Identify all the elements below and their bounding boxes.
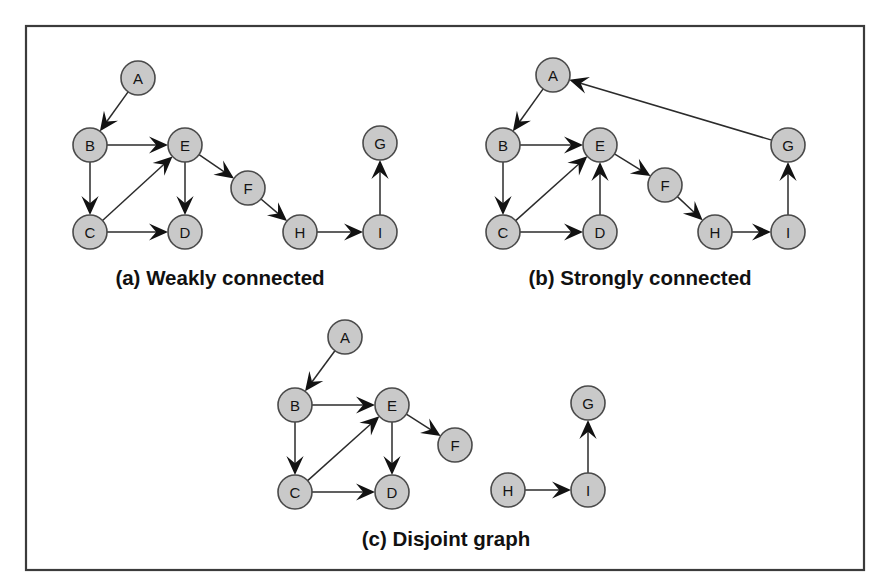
node-label-d: D xyxy=(387,484,398,501)
graph-node-c[interactable]: C xyxy=(278,475,312,509)
graph-node-d[interactable]: D xyxy=(583,215,617,249)
node-label-b: B xyxy=(85,137,95,154)
node-label-h: H xyxy=(503,482,514,499)
figure-frame-border xyxy=(26,26,864,570)
graph-node-e[interactable]: E xyxy=(375,388,409,422)
graph-node-g[interactable]: G xyxy=(363,126,397,160)
graph-node-b[interactable]: B xyxy=(486,128,520,162)
graph-figure-svg: ABCDEFGHI(a) Weakly connectedABCDEFGHI(b… xyxy=(0,0,882,588)
graph-node-f[interactable]: F xyxy=(231,171,265,205)
graph-node-d[interactable]: D xyxy=(168,215,202,249)
node-label-i: I xyxy=(378,224,382,241)
node-label-e: E xyxy=(595,137,605,154)
graph-node-e[interactable]: E xyxy=(583,128,617,162)
panel-c-caption: (c) Disjoint graph xyxy=(362,527,531,550)
graph-node-i[interactable]: I xyxy=(571,473,605,507)
node-label-d: D xyxy=(595,224,606,241)
graph-node-h[interactable]: H xyxy=(283,215,317,249)
graph-node-d[interactable]: D xyxy=(375,475,409,509)
node-label-g: G xyxy=(782,137,794,154)
node-label-h: H xyxy=(295,224,306,241)
graph-node-b[interactable]: B xyxy=(73,128,107,162)
graph-node-f[interactable]: F xyxy=(648,168,682,202)
node-label-c: C xyxy=(498,224,509,241)
node-label-e: E xyxy=(180,137,190,154)
graph-node-b[interactable]: B xyxy=(278,388,312,422)
graph-node-f[interactable]: F xyxy=(438,428,472,462)
panel-a-caption: (a) Weakly connected xyxy=(115,266,324,289)
panel-b-caption: (b) Strongly connected xyxy=(528,266,751,289)
node-label-g: G xyxy=(374,135,386,152)
node-label-a: A xyxy=(340,329,350,346)
node-label-b: B xyxy=(290,397,300,414)
graph-node-a[interactable]: A xyxy=(328,320,362,354)
node-label-a: A xyxy=(133,70,143,87)
node-label-h: H xyxy=(710,224,721,241)
graph-node-e[interactable]: E xyxy=(168,128,202,162)
node-label-c: C xyxy=(290,484,301,501)
graph-node-g[interactable]: G xyxy=(571,386,605,420)
node-label-d: D xyxy=(180,224,191,241)
node-label-a: A xyxy=(548,67,558,84)
graph-node-a[interactable]: A xyxy=(536,58,570,92)
node-label-f: F xyxy=(243,180,252,197)
node-label-i: I xyxy=(586,482,590,499)
node-label-i: I xyxy=(786,224,790,241)
node-label-f: F xyxy=(660,177,669,194)
graph-node-c[interactable]: C xyxy=(73,215,107,249)
graph-node-a[interactable]: A xyxy=(121,61,155,95)
graph-node-i[interactable]: I xyxy=(771,215,805,249)
graph-node-h[interactable]: H xyxy=(491,473,525,507)
node-label-f: F xyxy=(450,437,459,454)
node-label-g: G xyxy=(582,395,594,412)
graph-node-c[interactable]: C xyxy=(486,215,520,249)
node-label-c: C xyxy=(85,224,96,241)
graph-node-h[interactable]: H xyxy=(698,215,732,249)
node-label-b: B xyxy=(498,137,508,154)
node-label-e: E xyxy=(387,397,397,414)
graph-node-g[interactable]: G xyxy=(771,128,805,162)
figure-container: ABCDEFGHI(a) Weakly connectedABCDEFGHI(b… xyxy=(0,0,882,588)
graph-node-i[interactable]: I xyxy=(363,215,397,249)
